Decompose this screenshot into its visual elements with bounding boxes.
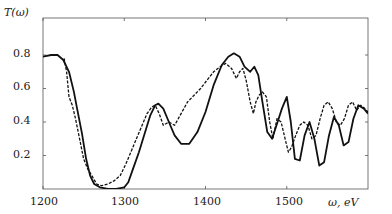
x-axis-label: ω, eV (328, 196, 358, 209)
chart: T(ω) ω, eV 0.2 0.4 0.6 0.8 1200 1300 140… (0, 0, 392, 214)
y-tick-label: 0.6 (13, 80, 31, 93)
y-axis-label: T(ω) (4, 6, 29, 19)
y-tick-label: 0.2 (13, 148, 31, 161)
plot-area (0, 0, 392, 214)
x-tick-label: 1500 (275, 195, 303, 208)
y-tick-label: 0.8 (13, 47, 31, 60)
x-tick-label: 1400 (193, 195, 221, 208)
solid-series-line (43, 53, 368, 189)
y-tick-label: 0.4 (13, 114, 31, 127)
x-tick-label: 1300 (111, 195, 139, 208)
x-tick-label: 1200 (30, 195, 58, 208)
